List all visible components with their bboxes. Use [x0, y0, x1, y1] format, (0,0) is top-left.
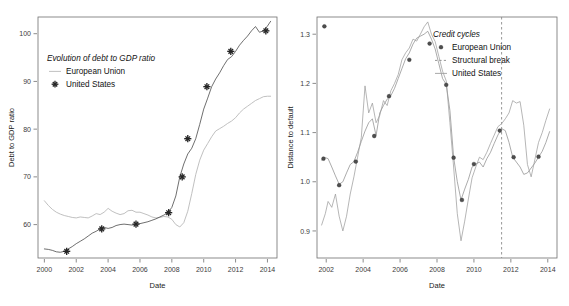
left-chart-panel: 2000200220042006200820102012201460708090… [0, 0, 284, 306]
data-point-marker [337, 183, 341, 187]
x-tick-label: 2014 [540, 266, 556, 273]
x-tick-label: 2006 [392, 266, 408, 273]
y-tick-label: 1.0 [300, 178, 310, 185]
y-axis-title: Debt to GDP ratio [7, 108, 16, 167]
legend-title: Evolution of debt to GDP ratio [47, 54, 155, 63]
legend-label: European Union [66, 67, 126, 76]
data-point-marker [354, 160, 358, 164]
y-tick-label: 0.9 [300, 228, 310, 235]
x-tick-label: 2010 [196, 266, 212, 273]
data-point-marker [322, 157, 326, 161]
y-tick-label: 90 [23, 78, 31, 85]
series-line-united-states [322, 22, 550, 241]
data-point-marker [460, 198, 464, 202]
legend-label: European Union [452, 43, 512, 52]
series-line-european-union [322, 31, 550, 200]
right-chart-panel: 20022004200620082010201220140.91.01.11.2… [285, 0, 569, 306]
data-point-marker [452, 156, 456, 160]
data-point-marker [407, 58, 411, 62]
x-tick-label: 2006 [132, 266, 148, 273]
data-point-marker [444, 83, 448, 87]
data-point-marker [537, 155, 541, 159]
legend-title: Credit cycles [433, 30, 480, 39]
legend-label: United States [452, 69, 501, 78]
x-tick-label: 2004 [100, 266, 116, 273]
y-tick-label: 1.3 [300, 31, 310, 38]
y-tick-label: 1.2 [300, 80, 310, 87]
y-tick-label: 1.1 [300, 129, 310, 136]
y-tick-label: 70 [23, 173, 31, 180]
y-tick-label: 80 [23, 126, 31, 133]
data-point-marker [322, 24, 326, 28]
x-tick-label: 2000 [37, 266, 53, 273]
legend-label: Structural break [452, 56, 511, 65]
legend-label: United States [66, 80, 115, 89]
x-tick-label: 2010 [466, 266, 482, 273]
left-chart-svg: 2000200220042006200820102012201460708090… [0, 0, 284, 306]
x-axis-title: Date [150, 281, 166, 290]
legend-key-dot-icon [439, 45, 443, 49]
data-point-marker [512, 155, 516, 159]
series-line-european-union [44, 96, 270, 227]
x-tick-label: 2012 [503, 266, 519, 273]
chart-legend: Evolution of debt to GDP ratioEuropean U… [47, 54, 155, 89]
x-tick-label: 2014 [260, 266, 276, 273]
y-tick-label: 60 [23, 221, 31, 228]
right-chart-svg: 20022004200620082010201220140.91.01.11.2… [285, 0, 569, 306]
x-tick-label: 2002 [68, 266, 84, 273]
data-point-marker [472, 162, 476, 166]
x-tick-label: 2008 [164, 266, 180, 273]
x-axis-title: Date [429, 281, 445, 290]
x-tick-label: 2002 [318, 266, 334, 273]
x-tick-label: 2008 [429, 266, 445, 273]
data-point-marker [372, 134, 376, 138]
plot-frame [317, 17, 557, 258]
data-point-marker [387, 94, 391, 98]
y-tick-label: 100 [19, 30, 31, 37]
data-point-marker [428, 42, 432, 46]
x-tick-label: 2004 [355, 266, 371, 273]
x-tick-label: 2012 [228, 266, 244, 273]
chart-legend: Credit cyclesEuropean UnionStructural br… [433, 30, 512, 78]
figure-container: 2000200220042006200820102012201460708090… [0, 0, 569, 306]
data-point-marker [498, 129, 502, 133]
y-axis-title: Distance to default [286, 106, 295, 169]
